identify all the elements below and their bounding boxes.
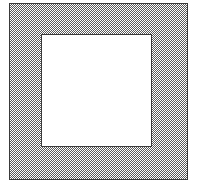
inner-square bbox=[41, 34, 152, 147]
figure-canvas: A large square filled with a 50% checker… bbox=[0, 0, 197, 186]
